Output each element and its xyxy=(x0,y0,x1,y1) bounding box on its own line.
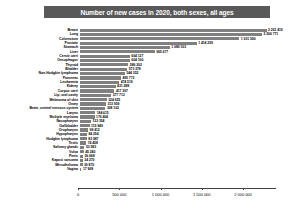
bar xyxy=(80,102,106,105)
chart-container: Number of new cases in 2020, both sexes,… xyxy=(0,0,288,215)
bar xyxy=(80,115,95,118)
bar xyxy=(80,81,119,84)
plot-area: Breast2 261 419Lung2 206 771Colorectum1 … xyxy=(0,28,288,188)
bar xyxy=(80,141,86,144)
bar-value-label: 17 908 xyxy=(83,167,93,171)
bar xyxy=(80,50,155,53)
bar xyxy=(80,85,116,88)
bar xyxy=(80,155,83,158)
axis-line xyxy=(78,188,276,189)
page-title: Number of new cases in 2020, both sexes,… xyxy=(80,9,233,16)
bar xyxy=(80,89,114,92)
bar xyxy=(80,76,121,79)
bar xyxy=(80,63,128,66)
axis-tick-mark xyxy=(243,188,244,190)
bar xyxy=(80,111,95,114)
axis-tick-mark xyxy=(119,188,120,190)
bar-row: Vagina17 908 xyxy=(0,167,288,171)
axis-tick-label: 0 xyxy=(77,192,79,197)
bar-track: 17 908 xyxy=(80,167,288,171)
axis-tick-label: 2 000 000 xyxy=(234,192,251,197)
bar xyxy=(80,124,90,127)
axis-tick-label: 1 500 000 xyxy=(193,192,210,197)
bar xyxy=(80,120,91,123)
category-label: Vagina xyxy=(0,167,80,171)
bar xyxy=(80,37,239,40)
bar xyxy=(80,46,170,49)
axis-tick-mark xyxy=(202,188,203,190)
bar xyxy=(80,163,83,166)
chart-title-banner: Number of new cases in 2020, both sexes,… xyxy=(44,6,270,18)
bar xyxy=(80,29,267,32)
bar xyxy=(80,68,127,71)
bar xyxy=(80,128,88,131)
bar xyxy=(80,107,105,110)
axis-tick-mark xyxy=(161,188,162,190)
bar xyxy=(80,98,107,101)
bar xyxy=(80,133,87,136)
axis-tick-label: 500 000 xyxy=(112,192,126,197)
bar xyxy=(80,168,81,171)
bar xyxy=(80,33,262,36)
bar xyxy=(80,72,125,75)
bar xyxy=(80,146,84,149)
axis-tick-mark xyxy=(78,188,79,190)
bar xyxy=(80,42,197,45)
bar xyxy=(80,150,84,153)
bar xyxy=(80,159,83,162)
bar xyxy=(80,137,87,140)
bar xyxy=(80,59,130,62)
bar xyxy=(80,55,130,58)
bar xyxy=(80,94,111,97)
x-axis: 0500 0001 000 0001 500 0002 000 000 xyxy=(0,188,288,208)
axis-tick-label: 1 000 000 xyxy=(152,192,169,197)
